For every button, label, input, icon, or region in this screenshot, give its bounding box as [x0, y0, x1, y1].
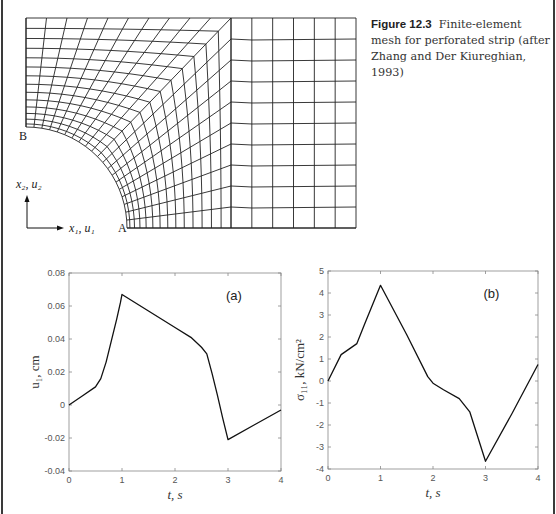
y-tick-label: 0.04 [47, 334, 65, 344]
figure-label: Figure 12.3 [371, 18, 432, 30]
y-axis-label: σ₁₁, kN/cm² [292, 339, 307, 401]
point-b-label: B [19, 129, 27, 143]
y-axis-label: u₁, cm [27, 355, 42, 388]
data-line [69, 294, 281, 439]
y-tick-label: 1 [319, 354, 324, 364]
y-tick-label: 2 [319, 332, 324, 342]
y-tick-label: -4 [316, 464, 324, 474]
y-tick-label: 5 [319, 266, 324, 276]
y-tick-label: -2 [316, 420, 324, 430]
chart-displacement-u1: 01234-0.04-0.0200.020.040.060.08(a)t, su… [0, 255, 290, 514]
y-tick-label: 4 [319, 288, 324, 298]
x-tick-label: 1 [119, 475, 124, 485]
y-tick-label: 0 [319, 376, 324, 386]
x-axis-label: t, s [167, 487, 182, 502]
y-tick-label: 0.06 [47, 301, 65, 311]
panel-label: (a) [226, 288, 242, 303]
data-line [328, 285, 538, 461]
panel-label: (b) [483, 286, 499, 301]
axis-x2-label: x₂, u₂ [15, 177, 42, 191]
axis-x1-label: x₁, u₁ [68, 221, 95, 235]
x-tick-label: 2 [430, 473, 435, 483]
x-tick-label: 0 [66, 475, 71, 485]
y-tick-label: 0.02 [47, 367, 65, 377]
plot-area: 01234-4-3-2-1012345(b)t, sσ₁₁, kN/cm² [292, 266, 541, 500]
finite-element-mesh: B A x₂, u₂ x₁, u₁ [0, 0, 370, 240]
coordinate-axes-icon [25, 195, 65, 231]
x-tick-label: 0 [325, 473, 330, 483]
y-tick-label: 3 [319, 310, 324, 320]
mesh-grid [26, 18, 356, 228]
x-tick-label: 2 [172, 475, 177, 485]
x-tick-label: 3 [225, 475, 230, 485]
x-axis-label: t, s [425, 485, 440, 500]
y-tick-label: -0.02 [44, 433, 65, 443]
y-tick-label: -0.04 [44, 466, 65, 476]
x-tick-label: 3 [483, 473, 488, 483]
chart-stress-sigma11: 01234-4-3-2-1012345(b)t, sσ₁₁, kN/cm² [280, 255, 556, 514]
x-tick-label: 1 [378, 473, 383, 483]
figure-caption: Figure 12.3 Finite-element mesh for perf… [371, 16, 551, 81]
textbook-page: Figure 12.3 Finite-element mesh for perf… [0, 0, 556, 514]
y-tick-label: 0 [60, 400, 65, 410]
y-tick-label: -1 [316, 398, 324, 408]
y-tick-label: 0.08 [47, 268, 65, 278]
plot-area: 01234-0.04-0.0200.020.040.060.08(a)t, su… [27, 268, 284, 502]
y-tick-label: -3 [316, 442, 324, 452]
x-tick-label: 4 [535, 473, 540, 483]
point-a-label: A [118, 221, 127, 235]
